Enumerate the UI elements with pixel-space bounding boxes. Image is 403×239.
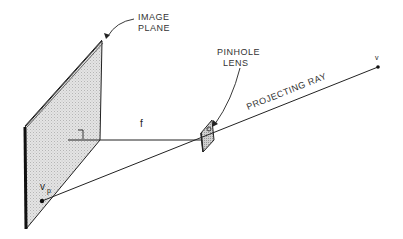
image-plane-label-line2: PLANE [138, 23, 170, 33]
pinhole-lens [201, 120, 214, 152]
pinhole-label-line2: LENS [223, 58, 249, 68]
image-plane-leader-arrow [108, 19, 134, 36]
point-vp [40, 199, 44, 203]
pinhole-label-line1: PINHOLE [217, 47, 260, 57]
pinhole-leader-arrow [215, 68, 240, 124]
image-plane [25, 40, 103, 229]
image-plane-label-line1: IMAGE [138, 12, 170, 22]
point-v [376, 65, 380, 69]
point-vp-label-sub: p [47, 187, 51, 195]
pinhole-camera-diagram: f v v p IMAGE PLANE PINHOLE LENS PROJECT… [0, 0, 403, 239]
point-v-label: v [375, 54, 379, 61]
point-vp-label-base: v [40, 181, 45, 192]
focal-length-label: f [140, 118, 143, 129]
